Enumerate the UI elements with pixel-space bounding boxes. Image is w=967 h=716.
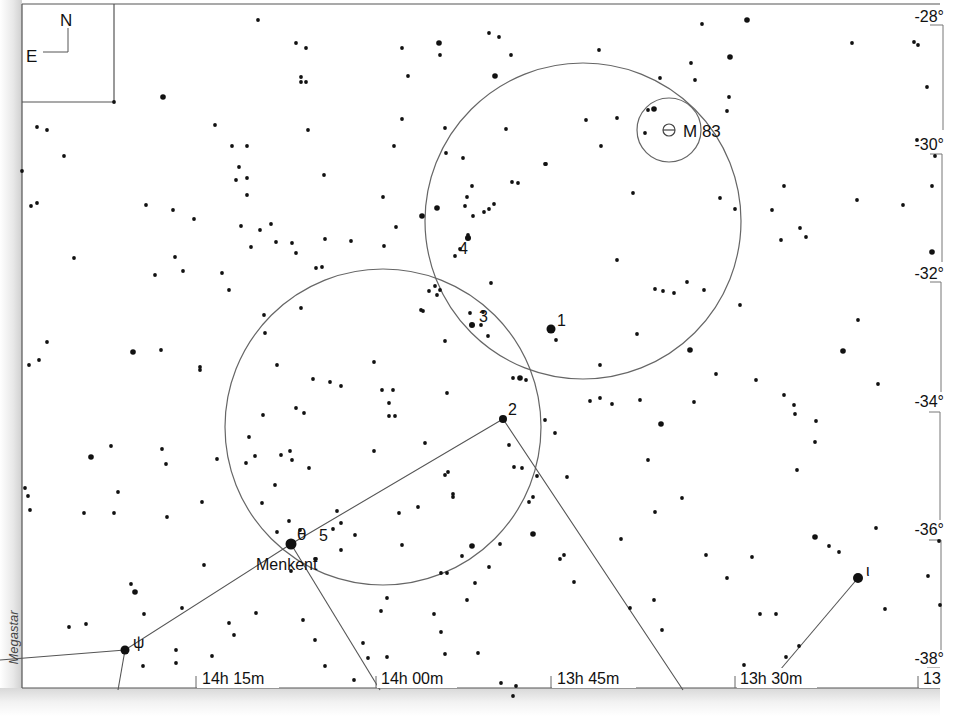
star — [258, 228, 262, 232]
hop-star-1[interactable] — [547, 325, 556, 334]
star — [700, 22, 704, 26]
label-hop-3: 3 — [479, 308, 488, 325]
star — [653, 287, 657, 291]
ra-label-14h00m: 14h 00m — [381, 670, 443, 687]
dec-label-34: -34° — [914, 393, 944, 410]
star — [192, 217, 196, 221]
star — [509, 53, 513, 57]
star — [391, 388, 395, 392]
star — [588, 399, 592, 403]
constellation-line — [780, 578, 858, 670]
star — [423, 441, 427, 445]
star — [406, 74, 410, 78]
star-iota[interactable] — [853, 573, 863, 583]
label-hop-1: 1 — [557, 312, 566, 329]
credit-label: Megastar — [6, 603, 21, 673]
star — [565, 475, 569, 479]
star — [427, 289, 431, 293]
star — [517, 375, 523, 381]
star — [381, 195, 385, 199]
star — [23, 486, 27, 490]
star — [598, 396, 602, 400]
star — [643, 131, 647, 135]
star — [160, 447, 164, 451]
star — [288, 449, 292, 453]
star — [727, 95, 731, 99]
star — [273, 483, 277, 487]
star — [543, 418, 547, 422]
star — [933, 154, 937, 158]
star — [227, 621, 231, 625]
star — [392, 144, 396, 148]
star — [45, 128, 49, 132]
star — [471, 214, 475, 218]
hop-star-2[interactable] — [499, 415, 507, 423]
star — [323, 664, 327, 668]
dec-label-38: -38° — [914, 650, 944, 667]
star — [482, 210, 486, 214]
star — [144, 203, 148, 207]
star — [750, 555, 754, 559]
star — [400, 117, 404, 121]
dec-label-32: -32° — [914, 265, 944, 282]
dec-label-30: -30° — [914, 136, 944, 153]
star — [797, 644, 801, 648]
star — [26, 494, 30, 498]
star — [385, 596, 389, 600]
star — [244, 461, 248, 465]
star — [610, 402, 614, 406]
star — [287, 519, 291, 523]
star-menkent[interactable] — [286, 539, 297, 550]
star — [261, 413, 265, 417]
star — [446, 470, 450, 474]
star — [443, 652, 447, 656]
star — [487, 565, 491, 569]
star — [461, 156, 465, 160]
star — [687, 347, 693, 353]
galaxy-m83-icon[interactable] — [663, 124, 675, 136]
star — [499, 681, 503, 685]
star — [239, 224, 243, 228]
label-m83: M 83 — [683, 122, 721, 141]
star — [465, 195, 469, 199]
star-chart: N E — [0, 0, 967, 716]
star — [445, 391, 449, 395]
star — [279, 453, 283, 457]
star — [173, 255, 177, 259]
constellation-line — [118, 650, 125, 690]
star — [353, 533, 357, 537]
star — [874, 526, 878, 530]
star — [387, 401, 391, 405]
star — [661, 289, 665, 293]
hop-star-3[interactable] — [469, 322, 475, 328]
star — [200, 500, 204, 504]
star — [84, 622, 88, 626]
star — [72, 256, 76, 260]
star — [516, 181, 520, 185]
star — [245, 193, 249, 197]
star — [510, 180, 514, 184]
star — [804, 235, 808, 239]
star — [572, 580, 576, 584]
star — [738, 303, 742, 307]
star — [165, 515, 169, 519]
dec-label-36: -36° — [914, 521, 944, 538]
star-psi[interactable] — [121, 646, 130, 655]
star — [180, 606, 184, 610]
star — [269, 222, 273, 226]
star — [230, 144, 234, 148]
star — [937, 539, 941, 543]
constellation-line — [0, 419, 683, 690]
north-label: N — [60, 11, 72, 30]
star — [352, 678, 356, 682]
star — [256, 18, 260, 22]
label-psi: ψ — [133, 634, 144, 651]
star — [443, 473, 447, 477]
star — [438, 288, 442, 292]
star — [460, 554, 464, 558]
star — [733, 207, 737, 211]
star — [782, 184, 786, 188]
star — [304, 46, 308, 50]
ra-label-14h15m: 14h 15m — [202, 670, 264, 687]
star — [379, 609, 383, 613]
